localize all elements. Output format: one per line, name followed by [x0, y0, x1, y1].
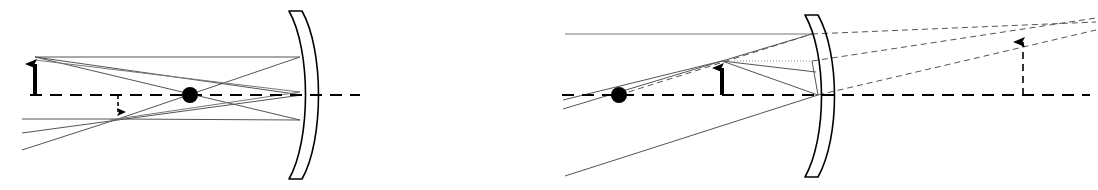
right-panel-rays: [563, 18, 1096, 176]
optics-ray-diagram-figure: [0, 0, 1098, 190]
focal-point-dot: [182, 87, 198, 103]
ray-through-focus-incident: [35, 57, 300, 120]
ray-from-vertex-down-left: [565, 95, 818, 176]
reflected-ray-continues: [563, 61, 722, 109]
secondary-ray-upper: [35, 60, 300, 92]
virtual-ray-extension-top: [812, 22, 1096, 34]
left-panel: [22, 11, 360, 179]
focal-point-dot: [611, 87, 627, 103]
reflected-ray-through-focus: [722, 34, 812, 61]
right-panel: [562, 15, 1096, 177]
reflected-from-61-downward: [812, 61, 818, 95]
focal-ray-incident: [619, 34, 812, 95]
ray-diagram-canvas: [0, 0, 1098, 190]
reflected-ray-through-focus: [118, 57, 300, 119]
ray-to-vertex-from-tip: [722, 61, 818, 95]
chief-ray-reflected: [22, 95, 302, 133]
reflected-parallel-ray-bottom: [118, 119, 300, 120]
reflected-ray-extension-low: [22, 119, 118, 150]
secondary-ray-lower-return: [110, 92, 300, 120]
ray-from-vertex-up-right: [818, 30, 1096, 95]
left-panel-rays: [22, 57, 302, 150]
